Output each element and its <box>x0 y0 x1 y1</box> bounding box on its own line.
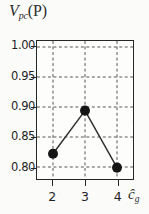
y-tick-label: 0.95 <box>1 69 35 83</box>
plot-area <box>36 40 134 180</box>
data-series <box>37 41 133 179</box>
y-tick-label: 0.80 <box>1 160 35 174</box>
x-tick-mark <box>52 180 53 186</box>
x-tick-label: 3 <box>76 189 94 204</box>
y-tick-label: 1.00 <box>1 38 35 52</box>
x-axis-label-main: ĉ <box>128 186 135 202</box>
y-axis-label-main: V <box>9 2 19 19</box>
y-axis-label: Vpc(P) <box>9 2 47 21</box>
x-tick-label: 2 <box>43 189 61 204</box>
y-axis-label-subscript: pc <box>19 10 28 21</box>
x-axis-label: ĉg <box>128 186 139 204</box>
x-tick-label: 4 <box>109 189 127 204</box>
y-axis-label-argument: (P) <box>28 2 48 19</box>
x-tick-mark <box>85 180 86 186</box>
y-tick-label: 0.90 <box>1 99 35 113</box>
y-tick-label: 0.85 <box>1 129 35 143</box>
x-axis-label-subscript: g <box>135 194 140 204</box>
chart-figure: Vpc(P) 1.00 0.95 0.90 0.85 0.80 2 3 4 ĉg <box>0 0 149 214</box>
x-tick-mark <box>118 180 119 186</box>
